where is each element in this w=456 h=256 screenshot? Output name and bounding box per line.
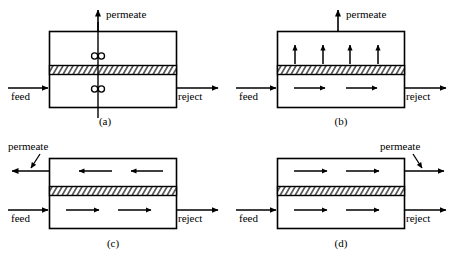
permeate-label: permeate (106, 8, 146, 20)
panel-d: permeate feed reject (d) (228, 128, 456, 256)
panel-caption: (c) (107, 237, 120, 250)
reject-label: reject (178, 90, 202, 102)
panel-b: permeate feed reject (b) (228, 0, 456, 128)
membrane-flow-figure: permeate feed reject (a) (0, 0, 456, 256)
membrane-layer (278, 187, 405, 196)
permeate-label: permeate (346, 8, 386, 20)
panel-caption: (b) (335, 115, 348, 128)
feed-label: feed (11, 90, 30, 102)
permeate-label: permeate (380, 140, 420, 152)
reject-label: reject (406, 212, 430, 224)
panel-a: permeate feed reject (a) (0, 0, 228, 128)
permeate-leader-arrow (413, 154, 422, 168)
panel-c: permeate feed reject (c) (0, 128, 228, 256)
feed-label: feed (239, 212, 258, 224)
permeate-label: permeate (8, 140, 48, 152)
reject-label: reject (406, 90, 430, 102)
reject-label: reject (178, 212, 202, 224)
permeate-leader-arrow (31, 154, 40, 168)
membrane-layer (278, 66, 405, 75)
membrane-layer (50, 187, 177, 196)
panel-caption: (a) (99, 115, 112, 128)
feed-label: feed (11, 212, 30, 224)
feed-label: feed (239, 90, 258, 102)
panel-caption: (d) (335, 237, 348, 250)
membrane-layer (50, 66, 177, 75)
